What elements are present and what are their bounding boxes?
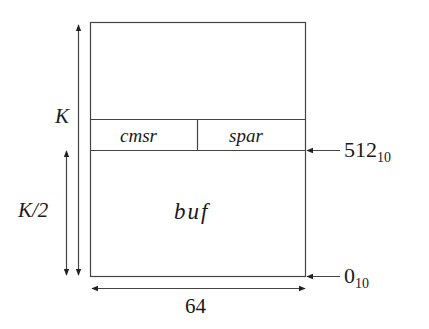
address-512-value: 512 [344, 137, 377, 162]
address-512-label: 51210 [344, 139, 391, 165]
address-0-label: 010 [344, 265, 369, 291]
address-0-value: 0 [344, 263, 355, 288]
width-label: 64 [185, 296, 206, 317]
cmsr-label: cmsr [120, 126, 157, 145]
k-half-label: K/2 [18, 200, 48, 221]
spar-label: spar [229, 126, 263, 145]
address-512-base: 10 [377, 150, 391, 165]
address-0-base: 10 [355, 276, 369, 291]
buf-label: buf [174, 200, 209, 223]
k-label: K [55, 106, 69, 127]
